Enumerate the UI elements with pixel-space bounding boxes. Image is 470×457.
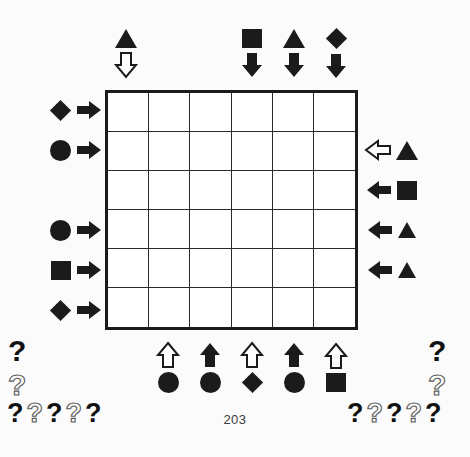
triangle-icon [115, 29, 137, 48]
triangle-icon [398, 222, 416, 238]
down-arrow-solid-icon [239, 51, 265, 79]
grid-cell[interactable] [314, 249, 355, 288]
grid-cell[interactable] [149, 249, 190, 288]
bottom-clue-col-4[interactable] [231, 334, 273, 400]
grid-cell[interactable] [273, 288, 314, 327]
up-arrow-solid-icon [197, 341, 223, 369]
right-question-mark-stack: ? ? [428, 336, 446, 400]
circle-icon [50, 140, 71, 161]
left-question-mark-stack: ? ? [8, 336, 26, 400]
circle-icon [200, 372, 221, 393]
grid-cell[interactable] [149, 288, 190, 327]
top-clue-col-3[interactable] [189, 22, 231, 86]
bottom-clue-col-5[interactable] [273, 334, 315, 400]
grid-cell[interactable] [108, 288, 149, 327]
right-clue-row-1[interactable] [360, 90, 422, 130]
grid-cell[interactable] [232, 210, 273, 249]
left-clue-row-1[interactable] [48, 90, 105, 130]
bottom-clue-col-2[interactable] [147, 334, 189, 400]
down-arrow-hollow-icon [113, 51, 139, 79]
diamond-icon [241, 372, 262, 393]
bottom-clue-col-6[interactable] [315, 334, 357, 400]
right-arrow-solid-icon [75, 138, 103, 162]
diamond-icon [50, 99, 71, 120]
bottom-clue-col-1[interactable] [105, 334, 147, 400]
circle-icon [158, 372, 179, 393]
down-arrow-solid-icon [281, 51, 307, 79]
grid-cell[interactable] [149, 171, 190, 210]
grid-cell[interactable] [232, 132, 273, 171]
right-clue-row-4[interactable] [360, 210, 422, 250]
grid-cell[interactable] [232, 249, 273, 288]
grid-cell[interactable] [190, 171, 231, 210]
right-arrow-solid-icon [75, 218, 103, 242]
diamond-icon [50, 299, 71, 320]
grid-cell[interactable] [149, 93, 190, 132]
top-clue-col-6[interactable] [315, 22, 357, 86]
grid-cell[interactable] [232, 171, 273, 210]
square-icon [242, 29, 262, 48]
grid-cell[interactable] [190, 210, 231, 249]
grid-cell[interactable] [149, 210, 190, 249]
grid-cell[interactable] [314, 132, 355, 171]
right-arrow-solid-icon [75, 258, 103, 282]
bottom-clue-col-3[interactable] [189, 334, 231, 400]
grid-cell[interactable] [273, 210, 314, 249]
grid-cell[interactable] [314, 171, 355, 210]
grid-cell[interactable] [190, 132, 231, 171]
up-arrow-hollow-icon [239, 341, 265, 369]
left-arrow-solid-icon [366, 218, 394, 242]
left-clue-row-6[interactable] [48, 290, 105, 330]
grid-cell[interactable] [149, 132, 190, 171]
question-mark-hollow-icon: ? [8, 370, 26, 400]
right-clue-row-6[interactable] [360, 290, 422, 330]
grid-cell[interactable] [273, 171, 314, 210]
left-arrow-solid-icon [366, 258, 394, 282]
triangle-icon [396, 141, 418, 160]
grid-cell[interactable] [232, 93, 273, 132]
right-clue-row-3[interactable] [360, 170, 422, 210]
circle-icon [284, 372, 305, 393]
left-clue-row-4[interactable] [48, 210, 105, 250]
grid-cell[interactable] [108, 171, 149, 210]
grid-cell[interactable] [314, 210, 355, 249]
grid-cell[interactable] [108, 93, 149, 132]
question-mark-solid-icon: ? [428, 336, 446, 366]
down-arrow-solid-icon [323, 52, 349, 80]
right-arrow-solid-icon [75, 298, 103, 322]
grid-cell[interactable] [314, 93, 355, 132]
grid-cell[interactable] [273, 249, 314, 288]
up-arrow-solid-icon [281, 341, 307, 369]
triangle-icon [398, 262, 416, 278]
top-clue-col-2[interactable] [147, 22, 189, 86]
grid-cell[interactable] [314, 288, 355, 327]
grid-cell[interactable] [108, 132, 149, 171]
grid-cell[interactable] [273, 132, 314, 171]
left-arrow-solid-icon [365, 178, 393, 202]
left-clue-row-3[interactable] [48, 170, 105, 210]
grid-cell[interactable] [232, 288, 273, 327]
puzzle-grid[interactable] [105, 90, 358, 330]
grid-cell[interactable] [108, 210, 149, 249]
grid-cell[interactable] [108, 249, 149, 288]
grid-cell[interactable] [273, 93, 314, 132]
square-icon [51, 261, 71, 280]
right-clue-row-5[interactable] [360, 250, 422, 290]
right-arrow-solid-icon [75, 98, 103, 122]
top-clue-col-4[interactable] [231, 22, 273, 86]
diamond-icon [325, 28, 346, 49]
square-icon [397, 181, 417, 200]
question-mark-solid-icon: ? [8, 336, 26, 366]
puzzle-page: ? ? ? ? ? ? ? ? ? ? ? ? ? ? 203 [0, 0, 470, 457]
top-clue-col-1[interactable] [105, 22, 147, 86]
left-clue-row-2[interactable] [48, 130, 105, 170]
left-clue-row-5[interactable] [48, 250, 105, 290]
top-clue-col-5[interactable] [273, 22, 315, 86]
up-arrow-hollow-icon [323, 342, 349, 370]
grid-cell[interactable] [190, 249, 231, 288]
left-arrow-hollow-icon [364, 138, 392, 162]
grid-cell[interactable] [190, 93, 231, 132]
right-clue-row-2[interactable] [360, 130, 422, 170]
grid-cell[interactable] [190, 288, 231, 327]
circle-icon [50, 220, 71, 241]
